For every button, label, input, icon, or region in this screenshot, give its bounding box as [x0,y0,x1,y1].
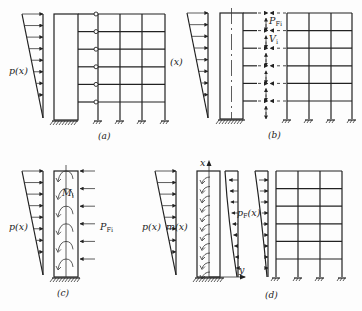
panel-a: p(x) (a) [9,12,169,141]
frame-d [276,171,342,277]
force-label-b: PFi [268,15,282,28]
caption-d: (d) [265,290,278,300]
fixed-support-wall-b [216,120,245,124]
triangular-load-b [187,13,208,118]
fixed-hatch [50,278,53,282]
panel-b: (x) PFi Vi (b) [170,8,356,140]
panel-c: p(x) Mi PFi (c) [9,165,113,298]
y-axis-arrow-icon [240,275,246,280]
fixed-support-wall-a [50,121,78,125]
moment-label-d: m(x) [166,221,188,232]
hinge [94,100,98,104]
fixed-support-d [193,278,224,282]
concentrated-forces-c [80,171,95,259]
moment-label-c: Mi [61,187,74,200]
x-axis-arrow-icon [207,160,212,166]
moments-c [56,171,73,270]
load-label-c: p(x) [9,221,28,232]
x-axis-label-d: x [200,157,206,168]
hinge [94,82,98,86]
hinge [94,47,98,51]
shear-wall-a [54,14,78,120]
fixed-hatch [216,120,219,124]
distributed-moments-d [200,177,210,279]
hinge [94,12,98,16]
fixed-hatch [50,121,53,125]
hinge [94,65,98,69]
interaction-forces-b [258,13,286,119]
caption-c: (c) [57,288,70,298]
wall-frame-diagram: p(x) (a) (x) PFi Vi (b) p(x) Mi PFi (c) [0,0,362,311]
caption-a: (a) [98,131,111,141]
hinge [94,30,98,34]
fixed-hatch [193,278,196,282]
dist-force-right-d [255,171,268,277]
panel-d: p(x) m(x) x y pF(x) (d) [142,157,346,300]
load-label-a: p(x) [9,65,28,76]
frame-a [78,14,165,120]
pin-supports-a [93,121,169,124]
load-label-b: (x) [170,56,183,67]
fixed-support-c [50,278,80,282]
load-label-d: p(x) [142,221,161,232]
y-axis-label-d: y [238,264,245,275]
force-label-c: PFi [99,221,113,234]
dist-force-left-d [225,171,238,277]
shear-label-b: Vi [269,33,278,46]
load-slope [187,13,208,118]
dist-force-label-d: pF(x) [237,207,261,220]
pin-supports-d [271,278,346,281]
pin-supports-b [282,120,356,123]
caption-b: (b) [268,130,281,140]
